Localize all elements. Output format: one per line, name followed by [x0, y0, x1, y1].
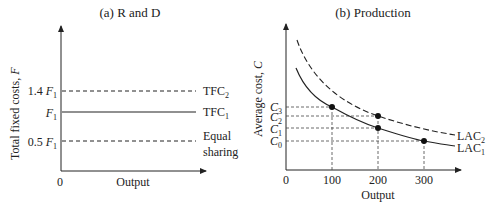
guide-lines	[286, 107, 424, 170]
x-axis-label: Output	[361, 188, 395, 202]
xtick-200: 200	[369, 173, 387, 187]
panel-b: (b) Production Average cost, C C3 C2 C1 …	[251, 5, 485, 202]
panel-b-title: (b) Production	[335, 5, 411, 20]
xtick-300: 300	[415, 173, 433, 187]
y-axis-label: Total fixed costs, F	[8, 67, 22, 160]
xtick-0: 0	[283, 173, 289, 187]
figure: (a) R and D Total fixed costs, F 1.4 F1 …	[0, 0, 502, 211]
panel-a: (a) R and D Total fixed costs, F 1.4 F1 …	[8, 5, 238, 189]
tfc1-label: TFC1	[203, 105, 229, 121]
equal-sharing-label-2: sharing	[203, 145, 238, 159]
tick-1.4F1: 1.4 F1	[28, 84, 57, 100]
panel-a-title: (a) R and D	[99, 5, 160, 20]
point-300-C0	[421, 138, 427, 144]
point-100-C3	[329, 104, 335, 110]
x-axis-label: Output	[116, 175, 150, 189]
tick-F1: F1	[45, 106, 57, 122]
lac2-curve	[297, 40, 455, 135]
origin-label: 0	[57, 175, 63, 189]
point-200-C2	[375, 113, 381, 119]
point-200-C1	[375, 125, 381, 131]
y-axis-label: Average cost, C	[251, 60, 265, 137]
equal-sharing-label-1: Equal	[203, 129, 232, 143]
lac1-label: LAC1	[457, 141, 485, 157]
tick-0.5F1: 0.5 F1	[28, 135, 57, 151]
xtick-100: 100	[323, 173, 341, 187]
tfc2-label: TFC2	[203, 84, 229, 100]
